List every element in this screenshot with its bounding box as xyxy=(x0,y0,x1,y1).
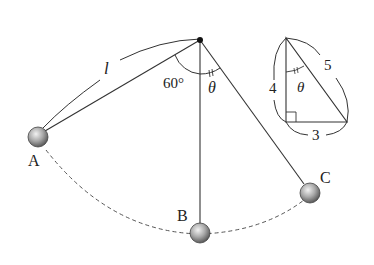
swing-path xyxy=(46,150,304,234)
inset-triangle xyxy=(274,38,348,135)
triangle-side-3: 3 xyxy=(312,128,320,143)
angle-60-arc xyxy=(175,55,200,74)
length-label: l xyxy=(104,60,109,77)
triangle-side-4: 4 xyxy=(269,81,277,96)
point-b-label: B xyxy=(177,208,188,224)
pivot-point xyxy=(197,37,203,43)
point-c-label: C xyxy=(320,170,331,186)
angle-theta-label: θ xyxy=(208,80,216,96)
angle-tick-2 xyxy=(212,69,213,76)
ball-a xyxy=(28,127,48,147)
angle-60-label: 60° xyxy=(163,76,184,91)
angle-theta-arc xyxy=(200,68,220,74)
triangle-theta-label: θ xyxy=(297,80,304,95)
pendulum-diagram: l 60° θ A B C 4 5 3 θ xyxy=(0,0,374,265)
ball-b xyxy=(190,223,210,243)
triangle-side-5: 5 xyxy=(324,58,332,73)
ball-c xyxy=(300,183,320,203)
angle-tick-1 xyxy=(209,70,210,77)
length-brace-upper xyxy=(120,39,200,60)
point-a-label: A xyxy=(28,153,40,169)
